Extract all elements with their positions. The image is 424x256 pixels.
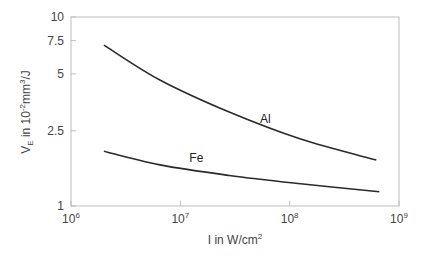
- x-axis: 106107108109: [62, 201, 408, 226]
- x-axis-title: I in W/cm2: [208, 232, 263, 247]
- series-line-fe: [104, 151, 379, 192]
- chart: 106107108109 12.557.510 AlFe I in W/cm2 …: [0, 0, 424, 256]
- y-axis-title: VE in 10-2mm3/J: [18, 70, 35, 154]
- x-tick-label: 107: [171, 211, 189, 226]
- plot-area: AlFe: [104, 45, 379, 192]
- series-label-fe: Fe: [189, 151, 203, 165]
- x-tick-label: 108: [281, 211, 299, 226]
- plot-frame: [71, 17, 399, 206]
- y-tick-label: 10: [51, 10, 65, 24]
- y-tick-label: 5: [57, 67, 64, 81]
- y-axis: 12.557.510: [47, 10, 76, 213]
- series-label-al: Al: [260, 112, 271, 126]
- y-tick-label: 7.5: [47, 34, 64, 48]
- y-tick-label: 1: [57, 199, 64, 213]
- x-tick-label: 106: [62, 211, 80, 226]
- series-line-al: [104, 45, 376, 160]
- x-tick-label: 109: [390, 211, 408, 226]
- y-tick-label: 2.5: [47, 124, 64, 138]
